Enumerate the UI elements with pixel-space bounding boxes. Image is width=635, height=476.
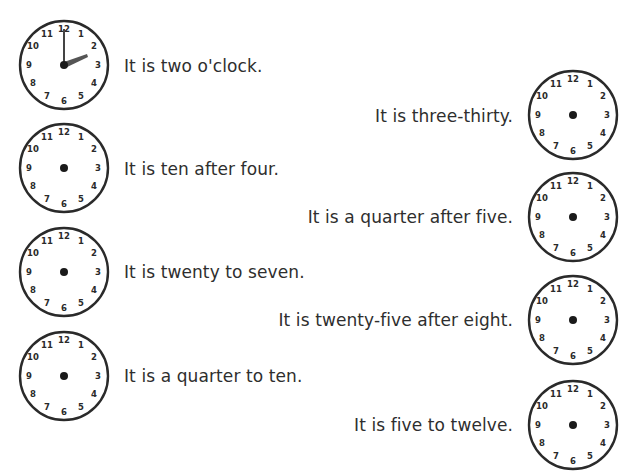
svg-text:8: 8 [539, 230, 545, 240]
svg-text:11: 11 [550, 181, 562, 191]
svg-text:2: 2 [91, 144, 97, 154]
svg-text:7: 7 [553, 243, 559, 253]
svg-text:12: 12 [58, 335, 70, 345]
clock-icon: 1212 345 678 91011 [17, 225, 111, 319]
svg-text:5: 5 [78, 402, 84, 412]
svg-text:11: 11 [550, 284, 562, 294]
svg-text:9: 9 [535, 212, 541, 222]
svg-text:11: 11 [41, 340, 53, 350]
svg-text:9: 9 [535, 420, 541, 430]
svg-text:3: 3 [604, 315, 610, 325]
svg-text:1: 1 [587, 181, 593, 191]
svg-text:9: 9 [535, 315, 541, 325]
svg-text:11: 11 [41, 236, 53, 246]
svg-text:8: 8 [539, 128, 545, 138]
svg-text:4: 4 [600, 333, 606, 343]
clock-face-blank[interactable]: 1212 345 678 91011 [526, 170, 620, 264]
svg-text:12: 12 [567, 279, 579, 289]
svg-text:5: 5 [78, 91, 84, 101]
svg-text:12: 12 [567, 384, 579, 394]
svg-text:8: 8 [30, 181, 36, 191]
clock-face-blank[interactable]: 1212 345 678 91011 [17, 225, 111, 319]
clock-face-blank[interactable]: 1212 345 678 91011 [526, 378, 620, 472]
clock-icon: 1212 345 678 91011 [17, 121, 111, 215]
svg-text:4: 4 [600, 230, 606, 240]
sentence-five-to-twelve: It is five to twelve. [354, 415, 513, 435]
svg-text:2: 2 [91, 352, 97, 362]
svg-text:8: 8 [30, 285, 36, 295]
sentence-twenty-to-seven: It is twenty to seven. [124, 262, 305, 282]
svg-text:6: 6 [570, 456, 576, 466]
svg-text:10: 10 [536, 296, 548, 306]
svg-text:3: 3 [95, 371, 101, 381]
svg-text:3: 3 [95, 267, 101, 277]
svg-text:10: 10 [27, 41, 39, 51]
svg-text:4: 4 [91, 389, 97, 399]
svg-text:12: 12 [58, 231, 70, 241]
svg-text:5: 5 [587, 346, 593, 356]
svg-text:4: 4 [91, 78, 97, 88]
clock-face-blank[interactable]: 1212 345 678 91011 [526, 273, 620, 367]
svg-text:5: 5 [587, 141, 593, 151]
svg-text:6: 6 [61, 96, 67, 106]
clock-face-blank[interactable]: 1212 345 678 91011 [17, 329, 111, 423]
svg-text:2: 2 [91, 41, 97, 51]
svg-text:12: 12 [567, 74, 579, 84]
clock-icon: 1212 345 678 91011 [526, 170, 620, 264]
svg-text:6: 6 [570, 146, 576, 156]
svg-text:1: 1 [78, 340, 84, 350]
svg-text:3: 3 [95, 163, 101, 173]
clock-icon: 1212 345 678 91011 [17, 18, 111, 112]
svg-text:10: 10 [27, 144, 39, 154]
svg-text:12: 12 [567, 176, 579, 186]
svg-text:1: 1 [78, 236, 84, 246]
svg-text:7: 7 [44, 402, 50, 412]
svg-text:7: 7 [553, 346, 559, 356]
sentence-quarter-after-five: It is a quarter after five. [308, 207, 513, 227]
svg-text:1: 1 [587, 79, 593, 89]
svg-text:8: 8 [30, 389, 36, 399]
svg-text:5: 5 [78, 194, 84, 204]
svg-text:2: 2 [600, 193, 606, 203]
sentence-ten-after-four: It is ten after four. [124, 159, 279, 179]
svg-text:4: 4 [91, 285, 97, 295]
svg-text:6: 6 [570, 248, 576, 258]
svg-text:9: 9 [26, 60, 32, 70]
svg-text:7: 7 [44, 194, 50, 204]
svg-text:6: 6 [61, 199, 67, 209]
svg-text:6: 6 [61, 303, 67, 313]
svg-text:4: 4 [600, 438, 606, 448]
svg-text:7: 7 [44, 91, 50, 101]
clock-icon: 1212 345 678 91011 [526, 273, 620, 367]
svg-text:1: 1 [78, 132, 84, 142]
svg-text:6: 6 [61, 407, 67, 417]
svg-text:8: 8 [539, 438, 545, 448]
svg-text:9: 9 [26, 371, 32, 381]
clock-icon: 1212 345 678 91011 [526, 378, 620, 472]
svg-text:8: 8 [539, 333, 545, 343]
svg-text:3: 3 [95, 60, 101, 70]
svg-text:7: 7 [44, 298, 50, 308]
svg-text:11: 11 [550, 79, 562, 89]
sentence-two-oclock: It is two o'clock. [124, 56, 262, 76]
clock-face-example: 1212 345 678 91011 [17, 18, 111, 112]
svg-text:9: 9 [26, 267, 32, 277]
svg-text:11: 11 [41, 132, 53, 142]
svg-text:3: 3 [604, 420, 610, 430]
svg-text:11: 11 [41, 29, 53, 39]
clock-face-blank[interactable]: 1212 345 678 91011 [17, 121, 111, 215]
svg-text:9: 9 [535, 110, 541, 120]
svg-text:3: 3 [604, 212, 610, 222]
clock-icon: 1212 345 678 91011 [17, 329, 111, 423]
svg-text:8: 8 [30, 78, 36, 88]
svg-text:5: 5 [587, 451, 593, 461]
svg-text:1: 1 [587, 389, 593, 399]
svg-text:10: 10 [27, 352, 39, 362]
svg-text:6: 6 [570, 351, 576, 361]
svg-text:2: 2 [600, 91, 606, 101]
svg-text:10: 10 [536, 193, 548, 203]
sentence-twenty-five-after-eight: It is twenty-five after eight. [278, 310, 513, 330]
clock-face-blank[interactable]: 1212 345 678 91011 [526, 68, 620, 162]
sentence-three-thirty: It is three-thirty. [375, 106, 513, 126]
svg-text:10: 10 [536, 91, 548, 101]
